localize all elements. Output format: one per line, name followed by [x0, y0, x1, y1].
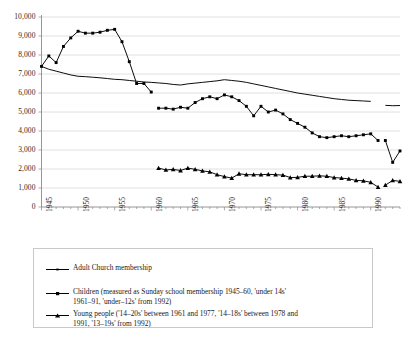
- data-point: [267, 111, 270, 114]
- chart-legend: Adult Church membershipChildren (measure…: [33, 248, 373, 328]
- data-point: [62, 45, 65, 48]
- data-point: [230, 95, 233, 98]
- line-square-icon: [44, 289, 71, 298]
- legend-item-3[interactable]: Young people ('14–20s' between 1961 and …: [44, 309, 366, 328]
- data-point: [157, 107, 160, 110]
- y-axis-label: 6,000: [0, 88, 36, 97]
- legend-label: Young people ('14–20s' between 1961 and …: [71, 309, 298, 328]
- line-plain-icon: [44, 265, 71, 274]
- data-point: [384, 139, 387, 142]
- series-line: [385, 141, 400, 163]
- data-point: [135, 82, 138, 85]
- data-point: [91, 32, 94, 35]
- data-point: [164, 107, 167, 110]
- data-point: [128, 60, 131, 63]
- chart-plot-area: 10,0009,0008,0007,0006,0005,0004,0003,00…: [0, 0, 408, 240]
- y-axis-label: 9,000: [0, 31, 36, 40]
- data-point: [369, 132, 372, 135]
- data-point: [303, 126, 306, 129]
- data-point: [340, 134, 343, 137]
- data-point: [377, 139, 380, 142]
- y-axis-label: 7,000: [0, 69, 36, 78]
- data-point: [311, 131, 314, 134]
- y-axis-label: 5,000: [0, 107, 36, 116]
- data-point: [274, 109, 277, 112]
- y-axis-label: 10,000: [0, 12, 36, 21]
- data-point: [260, 105, 263, 108]
- legend-label: Children (measured as Sunday school memb…: [71, 287, 286, 306]
- data-point: [223, 93, 226, 96]
- data-point: [318, 135, 321, 138]
- data-point: [325, 136, 328, 139]
- data-point: [121, 40, 124, 43]
- data-point: [142, 82, 145, 85]
- data-point: [208, 95, 211, 98]
- data-point: [201, 97, 204, 100]
- x-axis-label: 1945: [45, 197, 54, 212]
- y-axis-label: 2,000: [0, 164, 36, 173]
- data-point: [186, 166, 191, 170]
- data-point: [362, 133, 365, 136]
- x-axis-label: 1985: [338, 197, 347, 212]
- legend-item-2[interactable]: Children (measured as Sunday school memb…: [44, 287, 366, 306]
- data-point: [355, 134, 358, 137]
- x-axis-label: 1980: [301, 197, 310, 212]
- x-axis-label: 1965: [191, 197, 200, 212]
- data-point: [194, 101, 197, 104]
- x-axis-label: 1950: [82, 197, 91, 212]
- data-point: [106, 29, 109, 32]
- data-point: [238, 99, 241, 102]
- data-point: [289, 118, 292, 121]
- data-point: [99, 31, 102, 34]
- data-point: [77, 30, 80, 33]
- x-axis-label: 1960: [155, 197, 164, 212]
- x-axis-label: 1970: [228, 197, 237, 212]
- x-axis-label: 1975: [264, 197, 273, 212]
- data-point: [179, 106, 182, 109]
- y-axis-label: 1,000: [0, 183, 36, 192]
- data-point: [252, 114, 255, 117]
- data-point: [281, 112, 284, 115]
- data-point: [391, 161, 394, 164]
- y-axis-label: 0: [0, 202, 36, 211]
- chart-page: 10,0009,0008,0007,0006,0005,0004,0003,00…: [0, 0, 408, 337]
- y-axis-label: 3,000: [0, 145, 36, 154]
- y-axis-label: 8,000: [0, 50, 36, 59]
- series-line: [42, 29, 152, 92]
- series-line: [159, 168, 378, 187]
- data-point: [383, 183, 388, 187]
- data-point: [172, 108, 175, 111]
- legend-label: Adult Church membership: [71, 263, 152, 273]
- series-line: [42, 66, 371, 101]
- data-point: [150, 91, 153, 94]
- data-point: [399, 150, 402, 153]
- data-point: [113, 28, 116, 31]
- x-axis-label: 1990: [374, 197, 383, 212]
- data-point: [333, 135, 336, 138]
- data-point: [47, 55, 50, 58]
- data-point: [245, 105, 248, 108]
- legend-item-1[interactable]: Adult Church membership: [44, 263, 366, 274]
- series-1: [42, 66, 401, 105]
- data-point: [376, 185, 381, 189]
- data-point: [216, 97, 219, 100]
- x-axis-label: 1955: [118, 197, 127, 212]
- data-point: [84, 32, 87, 35]
- data-point: [347, 135, 350, 138]
- data-point: [55, 61, 58, 64]
- data-point: [40, 65, 43, 68]
- series-2: [40, 28, 401, 164]
- data-point: [186, 107, 189, 110]
- data-point: [156, 166, 161, 170]
- series-line: [159, 95, 378, 141]
- line-triangle-icon: [44, 311, 71, 320]
- data-point: [69, 36, 72, 39]
- y-axis-label: 4,000: [0, 126, 36, 135]
- data-point: [296, 122, 299, 125]
